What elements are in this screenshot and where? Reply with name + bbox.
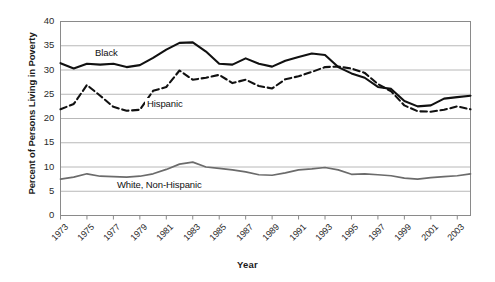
series-label-hispanic: Hispanic (145, 98, 185, 109)
x-axis-title: Year (0, 259, 495, 270)
y-tick-label: 40 (28, 15, 54, 26)
poverty-line-chart: Percent of Persons Living in Poverty Yea… (0, 0, 495, 282)
series-line-white-non-hispanic (61, 162, 471, 179)
y-tick-label: 20 (28, 112, 54, 123)
series-line-hispanic (61, 67, 471, 112)
series-line-black (61, 42, 471, 106)
y-tick-label: 10 (28, 161, 54, 172)
y-tick-label: 35 (28, 39, 54, 50)
series-label-black: Black (93, 47, 120, 58)
y-tick-label: 5 (28, 185, 54, 196)
y-tick-label: 15 (28, 136, 54, 147)
series-label-white-non-hispanic: White, Non-Hispanic (115, 179, 204, 190)
y-tick-label: 25 (28, 88, 54, 99)
y-tick-label: 0 (28, 209, 54, 220)
y-tick-label: 30 (28, 64, 54, 75)
